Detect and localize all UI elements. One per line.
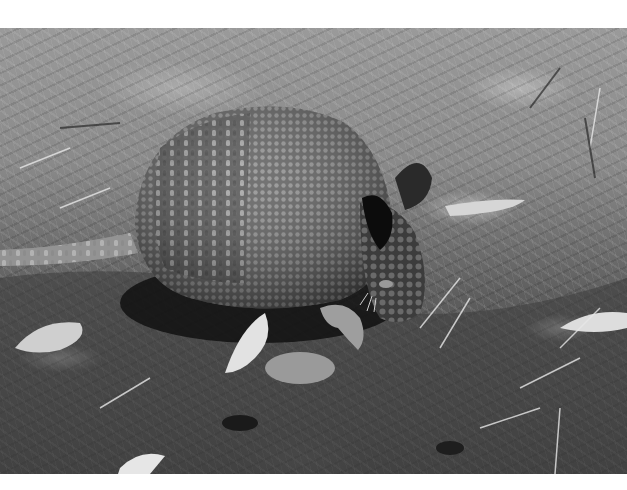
fallen-leaf-round: [265, 352, 335, 384]
soil-clod: [222, 415, 258, 431]
fallen-leaf-top-right: [445, 200, 525, 216]
armadillo-ear-back: [395, 163, 432, 210]
photo-scene: [0, 28, 627, 474]
soil-clod: [436, 441, 464, 455]
armadillo-eye: [379, 280, 393, 288]
armadillo-photo: [0, 28, 627, 474]
